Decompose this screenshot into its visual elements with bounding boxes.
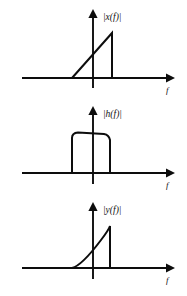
vertical-axis bbox=[88, 9, 97, 88]
axis-arrow-icon bbox=[166, 263, 175, 272]
axis-arrow-icon bbox=[88, 106, 97, 115]
panel-label-input: |x(f)| bbox=[103, 12, 121, 23]
signal-trace-output bbox=[72, 226, 110, 268]
horizontal-axis bbox=[22, 168, 175, 177]
panel-filter-response: |h(f)| f bbox=[22, 106, 175, 190]
horizontal-axis bbox=[22, 73, 175, 82]
axis-label-frequency: f bbox=[166, 275, 170, 285]
axis-arrow-icon bbox=[88, 9, 97, 18]
axis-arrow-icon bbox=[88, 202, 97, 211]
signal-trace-filter bbox=[72, 133, 110, 174]
panel-output-spectrum: |y(f)| f bbox=[22, 202, 175, 285]
horizontal-axis bbox=[22, 263, 175, 272]
signal-trace-input bbox=[72, 33, 112, 78]
panel-input-spectrum: |x(f)| f bbox=[22, 9, 175, 95]
signal-spectra-figure: |x(f)| f |h(f)| f |y(f)| f bbox=[0, 0, 187, 296]
axis-arrow-icon bbox=[166, 73, 175, 82]
axis-label-frequency: f bbox=[166, 85, 170, 95]
panel-label-output: |y(f)| bbox=[103, 205, 121, 216]
panel-label-filter: |h(f)| bbox=[103, 109, 122, 120]
axis-label-frequency: f bbox=[166, 180, 170, 190]
axis-arrow-icon bbox=[166, 168, 175, 177]
